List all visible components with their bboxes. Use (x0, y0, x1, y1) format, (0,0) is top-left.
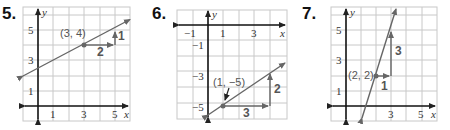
x-tick: 1 (50, 108, 56, 120)
x-tick: 1 (220, 27, 226, 39)
y-tick: 3 (336, 54, 342, 66)
run-label: 1 (381, 79, 388, 93)
axes (333, 9, 435, 119)
x-axis-label: x (279, 27, 285, 39)
graph-6: y x −1 1 3 −1 −3 −5 (1, −5) 3 2 (150, 0, 300, 130)
run-label: 2 (97, 45, 104, 59)
y-tick: 5 (28, 24, 34, 36)
point-label: (1, −5) (213, 76, 245, 88)
run-label: 3 (243, 106, 250, 120)
graph-7: y x 3 5 1 3 5 (2, 2) 1 3 (300, 0, 450, 130)
rise-label: 3 (395, 44, 402, 58)
x-tick: −1 (184, 27, 196, 39)
rise-label: 1 (118, 29, 125, 43)
pointer-arrow (225, 88, 229, 100)
rise-label: 2 (274, 82, 281, 96)
y-axis-label: y (211, 8, 217, 20)
x-tick: 5 (112, 108, 118, 120)
point-label: (3, 4) (60, 27, 86, 39)
grid (23, 7, 130, 121)
y-tick: −1 (192, 39, 204, 51)
problem-7: 7. y x 3 5 1 3 5 (300, 0, 450, 130)
grid (331, 7, 437, 121)
x-tick: 3 (81, 108, 87, 120)
y-axis-label: y (349, 6, 355, 18)
graph-5: y x 1 3 5 1 3 5 (3, 4) 2 1 (0, 0, 150, 130)
y-tick: −5 (192, 101, 204, 113)
point (374, 74, 379, 79)
point (82, 43, 87, 48)
x-tick: 3 (388, 108, 394, 120)
y-tick: 5 (336, 24, 342, 36)
y-tick: 3 (28, 54, 34, 66)
problem-6: 6. y x −1 1 3 −1 −3 −5 (150, 0, 300, 130)
point (221, 104, 226, 109)
x-tick: 5 (418, 108, 424, 120)
axes (25, 9, 128, 119)
problem-5: 5. y x 1 3 5 1 3 5 (0, 0, 150, 130)
x-axis-label: x (430, 108, 436, 120)
y-tick: −3 (192, 70, 204, 82)
y-tick: 1 (28, 85, 34, 97)
y-tick: 1 (336, 85, 342, 97)
y-axis-label: y (41, 6, 47, 18)
x-tick: 3 (251, 27, 257, 39)
x-axis-label: x (123, 108, 129, 120)
point-label: (2, 2) (348, 69, 374, 81)
